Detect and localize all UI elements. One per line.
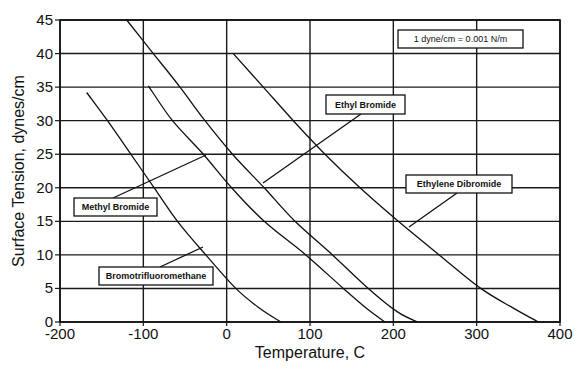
leader-bromotrifluoromethane <box>160 247 203 267</box>
y-tick-label: 5 <box>45 279 53 296</box>
x-tick-label: 300 <box>464 325 489 342</box>
y-tick-label: 25 <box>36 145 53 162</box>
leader-ethyl-bromide <box>263 114 361 183</box>
leader-methyl-bromide <box>113 155 206 198</box>
y-tick-label: 10 <box>36 246 53 263</box>
y-tick-label: 20 <box>36 179 53 196</box>
x-tick-label: -100 <box>128 325 158 342</box>
surface-tension-chart: BromotrifluoromethaneMethyl BromideEthyl… <box>0 0 584 369</box>
unit-note-text: 1 dyne/cm = 0.001 N/m <box>414 34 507 44</box>
series-label-ethylene-dibromide: Ethylene Dibromide <box>417 179 502 189</box>
series-label-ethyl-bromide: Ethyl Bromide <box>335 100 396 110</box>
x-tick-label: 100 <box>297 325 322 342</box>
y-tick-label: 40 <box>36 45 53 62</box>
y-tick-label: 35 <box>36 78 53 95</box>
y-tick-label: 30 <box>36 112 53 129</box>
x-tick-label: -200 <box>45 325 75 342</box>
series-label-bromotrifluoromethane: Bromotrifluoromethane <box>106 271 207 281</box>
x-tick-label: 400 <box>547 325 572 342</box>
y-tick-label: 45 <box>36 11 53 28</box>
x-tick-label: 200 <box>381 325 406 342</box>
series-label-methyl-bromide: Methyl Bromide <box>82 202 150 212</box>
y-tick-label: 15 <box>36 212 53 229</box>
callout-labels: BromotrifluoromethaneMethyl BromideEthyl… <box>74 30 523 285</box>
x-tick-label: 0 <box>222 325 230 342</box>
x-axis-title: Temperature, C <box>255 344 365 361</box>
y-axis-title: Surface Tension, dynes/cm <box>10 75 27 267</box>
